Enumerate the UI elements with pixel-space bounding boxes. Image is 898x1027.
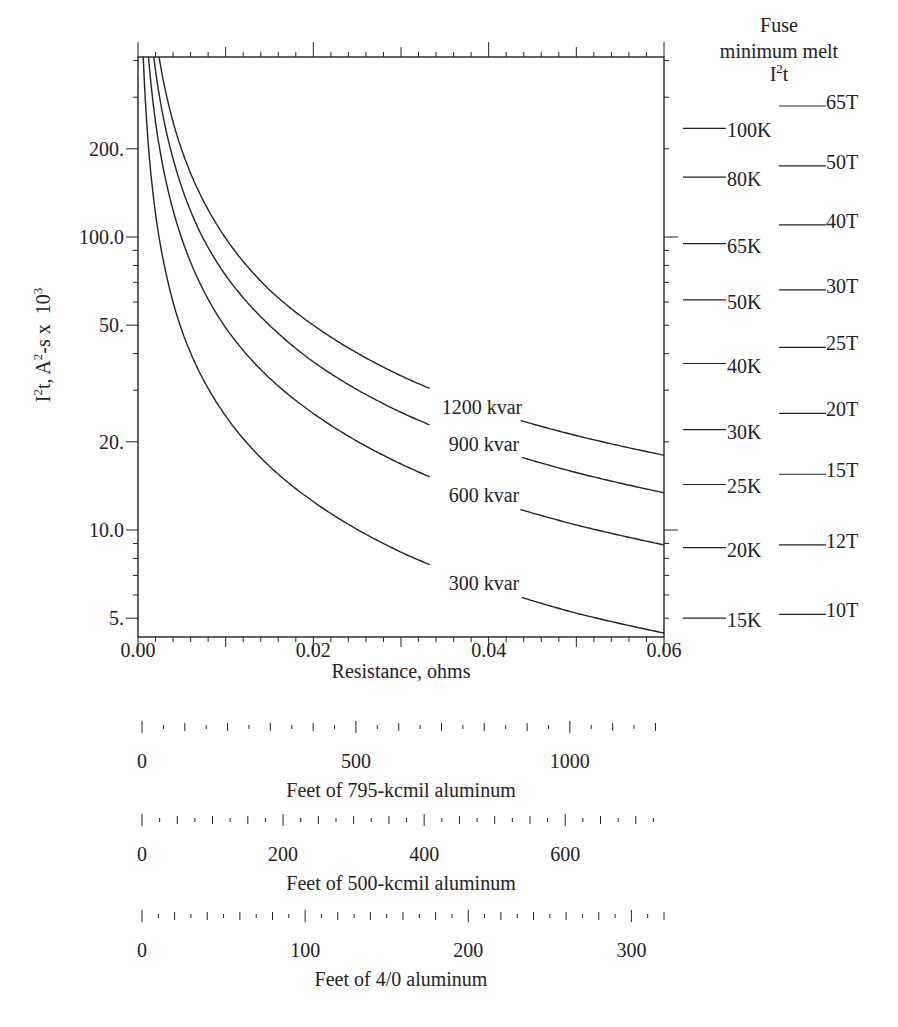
curve-600-kvar [149, 57, 430, 477]
k-fuse-label: 20K [727, 539, 762, 561]
y-tick-label: 5. [109, 607, 124, 629]
t-fuse-label: 50T [826, 151, 858, 173]
x-tick-label: 0.02 [296, 639, 331, 661]
length-tick-label: 0 [137, 750, 147, 772]
t-fuse-label: 40T [826, 210, 858, 232]
x-axis-label: Resistance, ohms [332, 660, 471, 682]
length-tick-label: 200 [453, 939, 483, 961]
fuse-title-line-2: minimum melt [720, 40, 839, 62]
length-tick-label: 400 [409, 843, 439, 865]
fuse-scale-title: Fuse minimum melt I2t [720, 14, 839, 85]
t-fuse-label: 10T [826, 599, 858, 621]
t-fuse-label: 15T [826, 459, 858, 481]
kvar-curves [143, 57, 664, 633]
k-fuse-label: 80K [727, 168, 762, 190]
t-fuse-label: 65T [826, 91, 858, 113]
k-fuse-label: 25K [727, 475, 762, 497]
length-scale: 0100200300Feet of 4/0 aluminum [137, 910, 664, 990]
length-tick-label: 600 [550, 843, 580, 865]
length-scale: 0200400600Feet of 500-kcmil aluminum [137, 814, 653, 894]
y-axis-label: I2t, A2-s x 103 [30, 288, 54, 403]
y-tick-label: 10.0 [89, 519, 124, 541]
top-axis-ticks [138, 42, 664, 57]
y-tick-label: 200. [89, 138, 124, 160]
curve-label: 1200 kvar [442, 396, 523, 418]
t-fuse-label: 30T [826, 275, 858, 297]
y-tick-label: 20. [99, 431, 124, 453]
right-axis-ticks [664, 61, 678, 619]
x-tick-label: 0.00 [121, 639, 156, 661]
k-fuse-label: 100K [727, 119, 772, 141]
length-scale-title: Feet of 500-kcmil aluminum [286, 872, 516, 894]
secondary-length-scales: 05001000Feet of 795-kcmil aluminum020040… [137, 721, 664, 990]
length-scale-title: Feet of 4/0 aluminum [315, 968, 488, 990]
x-axis: 0.000.020.040.06 [121, 637, 682, 661]
curve-label: 900 kvar [449, 433, 520, 455]
curve-1200-kvar [159, 57, 430, 388]
k-fuse-label: 50K [727, 291, 762, 313]
curve-label: 300 kvar [449, 572, 520, 594]
fuse-scale: 100K80K65K50K40K30K25K20K15K65T50T40T30T… [683, 91, 858, 631]
length-tick-label: 0 [137, 843, 147, 865]
length-tick-label: 200 [268, 843, 298, 865]
length-scale: 05001000Feet of 795-kcmil aluminum [137, 721, 655, 801]
length-scale-title: Feet of 795-kcmil aluminum [286, 779, 516, 801]
fuse-title-line-3: I2t [770, 61, 789, 85]
length-tick-label: 1000 [550, 750, 590, 772]
length-tick-label: 300 [616, 939, 646, 961]
curve-1200-kvar [521, 421, 664, 456]
curve-900-kvar [522, 457, 664, 492]
x-tick-label: 0.04 [471, 639, 506, 661]
plot-area-border [138, 57, 664, 637]
length-tick-label: 0 [137, 939, 147, 961]
curve-label: 600 kvar [449, 484, 520, 506]
t-fuse-label: 20T [826, 398, 858, 420]
t-fuse-label: 25T [826, 332, 858, 354]
k-fuse-label: 65K [727, 235, 762, 257]
length-tick-label: 500 [341, 750, 371, 772]
k-fuse-label: 30K [727, 421, 762, 443]
fuse-title-line-1: Fuse [760, 14, 798, 36]
y-tick-label: 50. [99, 314, 124, 336]
curve-300-kvar [522, 598, 664, 634]
curve-labels: 300 kvar600 kvar900 kvar1200 kvar [442, 396, 523, 594]
curve-600-kvar [520, 510, 664, 545]
plot-frame [138, 57, 664, 637]
length-tick-label: 100 [290, 939, 320, 961]
k-fuse-label: 15K [727, 609, 762, 631]
x-tick-label: 0.06 [647, 639, 682, 661]
y-axis: 200.100.050.20.10.05. [79, 61, 138, 630]
t-fuse-label: 12T [826, 530, 858, 552]
svg-text:I2t, A2-s x 103: I2t, A2-s x 103 [30, 288, 54, 403]
chart: 0.000.020.040.06 200.100.050.20.10.05. 3… [0, 0, 898, 1027]
curve-300-kvar [143, 57, 430, 565]
k-fuse-label: 40K [727, 355, 762, 377]
y-tick-label: 100.0 [79, 226, 124, 248]
